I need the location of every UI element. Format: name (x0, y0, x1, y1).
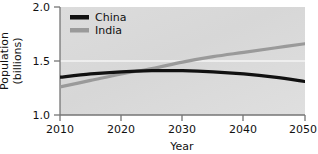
x-tick-label-2020: 2020 (107, 123, 135, 136)
y-axis-title: Population (billions) (0, 32, 24, 90)
legend-swatch-china (70, 15, 89, 20)
chart-svg: 2.0 1.5 1.0 Population (billions) 2010 2… (0, 0, 318, 154)
y-tick-label-1.5: 1.5 (33, 55, 51, 68)
y-tick-label-1.0: 1.0 (33, 109, 51, 122)
y-axis-title-line2: (billions) (11, 37, 24, 84)
legend-label-india: India (95, 24, 122, 37)
legend-label-china: China (95, 11, 126, 24)
x-tick-label-2040: 2040 (229, 123, 257, 136)
y-axis-title-line1: Population (0, 32, 11, 90)
x-tick-label-2050: 2050 (289, 123, 317, 136)
legend-swatch-india (70, 28, 89, 33)
x-axis-title: Year (169, 140, 194, 153)
x-tick-label-2010: 2010 (46, 123, 74, 136)
population-projection-chart: 2.0 1.5 1.0 Population (billions) 2010 2… (0, 0, 318, 154)
y-tick-label-2.0: 2.0 (33, 1, 51, 14)
x-tick-label-2030: 2030 (168, 123, 196, 136)
